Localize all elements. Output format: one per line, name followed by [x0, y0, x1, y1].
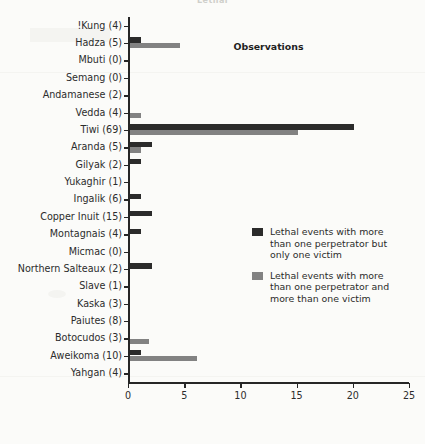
category-label: Gilyak (2) [75, 160, 122, 170]
x-axis-tick [409, 383, 410, 388]
y-axis-tick [124, 356, 128, 357]
bar-series-0 [130, 194, 141, 199]
x-axis-tick-label: 10 [234, 390, 246, 401]
bar-row: Botocudos (3) [128, 330, 409, 347]
x-axis-tick-label: 0 [125, 390, 131, 401]
bar-series-1 [130, 130, 299, 135]
category-label: Northern Salteaux (2) [18, 264, 122, 274]
bar-series-0 [130, 229, 141, 234]
legend-label-series-0: Lethal events with more than one perpetr… [270, 226, 402, 261]
bar-series-1 [130, 113, 141, 118]
bar-series-0 [130, 159, 141, 164]
bar-rows: !Kung (4)Hadza (5)Mbuti (0)Semang (0)And… [128, 17, 409, 382]
legend-item[interactable]: Lethal events with more than one perpetr… [252, 226, 402, 261]
bar-row: Aranda (5) [128, 139, 409, 156]
bar-series-0 [130, 124, 355, 129]
y-axis-tick [124, 182, 128, 183]
y-axis-tick [124, 286, 128, 287]
bar-row: Andamanese (2) [128, 87, 409, 104]
y-axis-tick [124, 234, 128, 235]
chart-container: Lethal !Kung (4)Hadza (5)Mbuti (0)Semang… [0, 0, 425, 444]
category-label: Vedda (4) [76, 108, 122, 118]
category-label: Ingalik (6) [74, 195, 122, 205]
x-axis-tick [297, 383, 298, 388]
bar-series-0 [130, 211, 152, 216]
category-label: Kaska (3) [77, 299, 122, 309]
y-axis-tick [124, 321, 128, 322]
category-label: Aweikoma (10) [50, 351, 122, 361]
x-axis-tick-label: 5 [181, 390, 187, 401]
bar-row: Mbuti (0) [128, 52, 409, 69]
y-axis-tick [124, 78, 128, 79]
category-label: Slave (1) [79, 282, 122, 292]
bar-series-1 [130, 147, 141, 152]
category-label: Montagnais (4) [50, 229, 122, 239]
bar-row: Gilyak (2) [128, 156, 409, 173]
x-axis-tick-label: 25 [403, 390, 415, 401]
legend-swatch-series-1 [252, 272, 263, 280]
bar-series-1 [130, 356, 197, 361]
category-label: Yahgan (4) [71, 368, 122, 378]
y-axis-tick [124, 26, 128, 27]
x-axis-tick [184, 383, 185, 388]
bar-row: Yukaghir (1) [128, 173, 409, 190]
legend-item[interactable]: Lethal events with more than one perpetr… [252, 270, 402, 305]
category-label: Paiutes (8) [71, 316, 122, 326]
x-axis-tick-label: 20 [347, 390, 359, 401]
category-label: Tiwi (69) [81, 125, 123, 135]
bar-row: Vedda (4) [128, 104, 409, 121]
y-axis-tick [124, 60, 128, 61]
x-axis-tick [128, 383, 129, 388]
bar-row: Aweikoma (10) [128, 347, 409, 364]
bar-series-0 [130, 263, 152, 268]
bar-row: Copper Inuit (15) [128, 208, 409, 225]
y-axis-tick [124, 252, 128, 253]
bar-series-0 [130, 142, 152, 147]
category-label: Yukaghir (1) [64, 177, 122, 187]
y-axis-tick [124, 338, 128, 339]
plot-area: !Kung (4)Hadza (5)Mbuti (0)Semang (0)And… [128, 17, 409, 382]
category-label: Micmac (0) [69, 247, 122, 257]
legend-label-series-1: Lethal events with more than one perpetr… [270, 270, 402, 305]
bar-series-1 [130, 339, 149, 344]
bar-row: Yahgan (4) [128, 365, 409, 382]
bar-row: Tiwi (69) [128, 121, 409, 138]
category-label: Copper Inuit (15) [40, 212, 122, 222]
y-axis-tick [124, 165, 128, 166]
x-axis-title: Observations [128, 41, 409, 52]
y-axis-tick [124, 304, 128, 305]
y-axis-tick [124, 199, 128, 200]
bar-row: Paiutes (8) [128, 312, 409, 329]
x-axis-tick [240, 383, 241, 388]
category-label: Mbuti (0) [78, 56, 122, 66]
y-axis-tick [124, 217, 128, 218]
category-label: Aranda (5) [71, 143, 122, 153]
category-label: Botocudos (3) [55, 334, 122, 344]
y-axis-tick [124, 130, 128, 131]
x-axis-ticks: 0510152025 [128, 383, 409, 405]
bar-row: !Kung (4) [128, 17, 409, 34]
category-label: Semang (0) [66, 73, 122, 83]
chart-legend: Lethal events with more than one perpetr… [252, 226, 402, 314]
y-axis-tick [124, 113, 128, 114]
partial-title-text: Lethal [0, 0, 425, 4]
x-axis-tick-label: 15 [290, 390, 302, 401]
bar-row: Semang (0) [128, 69, 409, 86]
y-axis-tick [124, 147, 128, 148]
y-axis-tick [124, 373, 128, 374]
y-axis-tick [124, 269, 128, 270]
category-label: !Kung (4) [77, 21, 122, 31]
category-label: Andamanese (2) [43, 90, 122, 100]
category-label: Hadza (5) [75, 38, 122, 48]
bar-series-0 [130, 350, 141, 355]
legend-swatch-series-0 [252, 228, 263, 236]
bar-row: Ingalik (6) [128, 191, 409, 208]
x-axis-tick [353, 383, 354, 388]
y-axis-tick [124, 95, 128, 96]
